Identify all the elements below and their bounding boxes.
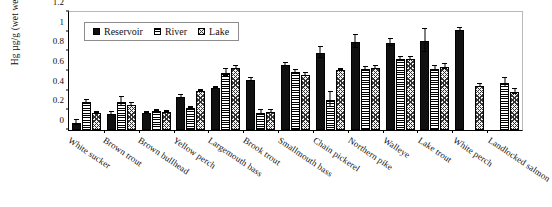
bar-lake — [440, 67, 449, 130]
bar-lake — [475, 86, 484, 130]
bar-slot — [326, 12, 335, 130]
error-bar — [330, 91, 331, 107]
error-bar — [76, 119, 77, 125]
bar-group — [487, 12, 522, 130]
legend-swatch-lake — [198, 28, 205, 35]
bar-group — [348, 12, 383, 130]
bar-reservoir — [281, 65, 290, 130]
bar-slot — [465, 12, 474, 130]
bar-slot — [316, 12, 325, 130]
legend-item-river: River — [154, 26, 187, 37]
y-tick-label: 1.2 — [53, 0, 69, 7]
bar-river — [117, 102, 126, 130]
error-bar — [131, 102, 132, 106]
bar-river — [221, 73, 230, 130]
bar-slot — [266, 12, 275, 130]
bar-lake — [196, 91, 205, 130]
error-bar — [190, 106, 191, 108]
error-bar — [410, 56, 411, 60]
bar-river — [396, 59, 405, 130]
error-bar — [166, 110, 167, 112]
error-bar — [250, 77, 251, 81]
bar-group — [383, 12, 418, 130]
bar-slot — [351, 12, 360, 130]
bar-river — [430, 69, 439, 130]
error-bar — [355, 34, 356, 48]
bar-group — [278, 12, 313, 130]
error-bar — [156, 109, 157, 111]
bar-reservoir — [386, 43, 395, 130]
bar-slot — [430, 12, 439, 130]
bar-lake — [162, 112, 171, 130]
error-bar — [400, 56, 401, 60]
bar-slot — [490, 12, 499, 130]
error-bar — [305, 72, 306, 76]
bar-reservoir — [351, 42, 360, 130]
error-bar — [270, 109, 271, 113]
bar-slot — [336, 12, 345, 130]
bar-slot — [361, 12, 370, 130]
legend-label-river: River — [165, 26, 187, 37]
chart-legend: Reservoir River Lake — [84, 22, 239, 41]
legend-swatch-reservoir — [93, 28, 100, 35]
error-bar — [235, 65, 236, 69]
x-axis-label: Walleye — [382, 135, 412, 160]
bar-lake — [266, 112, 275, 130]
bar-slot — [281, 12, 290, 130]
bar-reservoir — [420, 41, 429, 130]
bar-river — [82, 102, 91, 130]
bar-group — [417, 12, 452, 130]
error-bar — [365, 66, 366, 70]
legend-label-lake: Lake — [209, 26, 229, 37]
bar-slot — [420, 12, 429, 130]
error-bar — [200, 89, 201, 91]
error-bar — [146, 111, 147, 113]
bar-group — [313, 12, 348, 130]
bar-reservoir — [455, 30, 464, 130]
bar-river — [361, 69, 370, 130]
y-tick-label: 1 — [60, 17, 70, 27]
error-bar — [390, 38, 391, 46]
bar-group — [452, 12, 487, 130]
bar-group — [243, 12, 278, 130]
bar-slot — [440, 12, 449, 130]
error-bar — [434, 65, 435, 71]
error-bar — [375, 65, 376, 69]
bar-slot — [246, 12, 255, 130]
bar-lake — [92, 113, 101, 130]
bar-slot — [406, 12, 415, 130]
legend-swatch-river — [154, 28, 161, 35]
bar-slot — [291, 12, 300, 130]
bar-lake — [301, 75, 310, 130]
error-bar — [111, 111, 112, 115]
x-axis-label: Landlocked salmon — [487, 135, 552, 184]
bar-lake — [127, 105, 136, 130]
error-bar — [121, 96, 122, 106]
bar-slot — [371, 12, 380, 130]
x-axis-label: Lake trout — [417, 135, 454, 165]
bar-river — [291, 72, 300, 130]
error-bar — [260, 109, 261, 115]
bar-lake — [406, 59, 415, 130]
bar-lake — [510, 92, 519, 130]
y-axis-title: Hg µg/g (wet weight) — [10, 0, 20, 83]
error-bar — [504, 77, 505, 87]
bar-reservoir — [142, 113, 151, 130]
error-bar — [86, 99, 87, 103]
y-tick-label: 0.8 — [53, 36, 69, 46]
error-bar — [215, 86, 216, 88]
bar-slot — [386, 12, 395, 130]
error-bar — [225, 68, 226, 76]
legend-item-reservoir: Reservoir — [93, 26, 143, 37]
bar-reservoir — [316, 53, 325, 130]
bar-river — [152, 111, 161, 130]
y-tick-label: 0.4 — [53, 76, 69, 86]
error-bar — [285, 62, 286, 66]
bar-lake — [371, 68, 380, 130]
bar-slot — [301, 12, 310, 130]
error-bar — [424, 28, 425, 52]
bar-reservoir — [72, 123, 81, 130]
bar-river — [256, 113, 265, 130]
error-bar — [340, 68, 341, 70]
